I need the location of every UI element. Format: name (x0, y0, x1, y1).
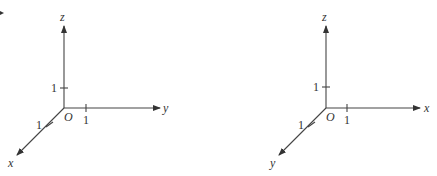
right-y-tick-label: 1 (298, 118, 304, 132)
right-z-axis-label: z (321, 10, 327, 24)
right-z-tick-label: 1 (313, 80, 319, 94)
left-z-tick-label: 1 (51, 81, 57, 95)
left-z-axis-label: z (59, 10, 65, 24)
diagram-canvas: z 1 y 1 x 1 O z 1 x 1 y 1 O (0, 0, 437, 176)
left-y-axis-label: y (162, 101, 169, 115)
left-coordinate-system: z 1 y 1 x 1 O (7, 10, 169, 170)
left-y-tick-label: 1 (83, 113, 89, 127)
right-x-tick-label: 1 (344, 113, 350, 127)
right-x-axis-label: x (423, 101, 430, 115)
right-origin-label: O (326, 110, 335, 124)
right-coordinate-system: z 1 x 1 y 1 O (269, 10, 430, 170)
stray-arrow-mark (0, 11, 4, 15)
left-x-tick-label: 1 (36, 118, 42, 132)
left-x-axis-label: x (7, 156, 14, 170)
left-origin-label: O (64, 110, 73, 124)
right-y-axis-label: y (269, 156, 276, 170)
